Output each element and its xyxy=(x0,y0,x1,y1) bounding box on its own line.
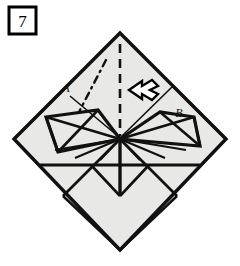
step-number-label: 7 xyxy=(18,12,27,31)
label-b: B xyxy=(175,106,183,120)
origami-step-figure: A B 7 xyxy=(0,0,240,266)
origami-diagram-canvas: A B 7 xyxy=(0,0,240,266)
step-number-box: 7 xyxy=(9,7,36,34)
center-node xyxy=(117,136,122,141)
label-a: A xyxy=(61,81,70,95)
